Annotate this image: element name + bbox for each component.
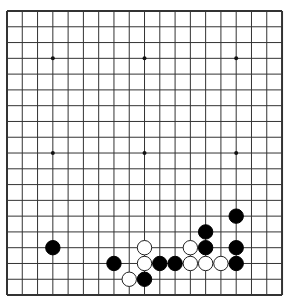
black-stone [137,272,151,286]
white-stone [122,272,136,286]
white-stone [183,241,197,255]
black-stone [229,209,243,223]
white-stone [137,241,151,255]
black-stone [229,256,243,270]
go-board[interactable] [0,0,286,304]
white-stone [137,256,151,270]
star-point [234,151,238,155]
white-stone [214,256,228,270]
black-stone [46,241,60,255]
white-stone [183,256,197,270]
star-point [143,151,147,155]
black-stone [198,241,212,255]
star-point [51,151,55,155]
black-stone [107,256,121,270]
star-point [143,56,147,60]
black-stone [153,256,167,270]
star-point [234,56,238,60]
star-point [51,56,55,60]
white-stone [198,256,212,270]
black-stone [168,256,182,270]
black-stone [198,225,212,239]
black-stone [229,241,243,255]
